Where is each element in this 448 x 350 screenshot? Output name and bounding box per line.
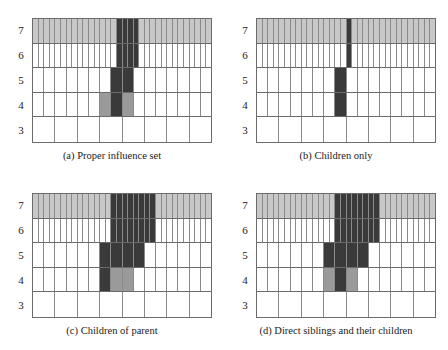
grid-cell bbox=[358, 268, 369, 292]
grid-cell bbox=[201, 68, 211, 92]
grid-cell bbox=[268, 268, 279, 292]
grid-cell bbox=[391, 268, 402, 292]
grid-cell bbox=[291, 243, 302, 267]
grid-cell bbox=[414, 243, 425, 267]
grid-cell bbox=[145, 292, 167, 317]
grid-cell bbox=[279, 243, 290, 267]
grid-cell bbox=[358, 93, 369, 117]
grid-cell bbox=[302, 292, 324, 317]
grid-cell bbox=[33, 68, 44, 92]
grid-cell bbox=[167, 243, 178, 267]
grid-cell bbox=[279, 93, 290, 117]
grid-cell bbox=[111, 243, 122, 267]
grid-cell bbox=[347, 268, 358, 292]
axis-label-6: 6 bbox=[12, 43, 30, 68]
grid-cell bbox=[279, 117, 301, 142]
grid-cell bbox=[402, 68, 413, 92]
grid-cell bbox=[33, 117, 55, 142]
grid-cell bbox=[206, 194, 211, 218]
axis-label-3: 3 bbox=[12, 293, 30, 318]
grid-cell bbox=[302, 68, 313, 92]
panel-b-grid bbox=[256, 18, 436, 143]
grid-row-level-6 bbox=[33, 219, 211, 244]
grid-cell bbox=[33, 93, 44, 117]
grid-cell bbox=[358, 243, 369, 267]
grid-cell bbox=[156, 68, 167, 92]
grid-cell bbox=[190, 268, 201, 292]
grid-row-level-3 bbox=[33, 292, 211, 317]
grid-cell bbox=[100, 292, 122, 317]
grid-cell bbox=[347, 292, 369, 317]
grid-cell bbox=[178, 68, 189, 92]
grid-cell bbox=[44, 68, 55, 92]
grid-cell bbox=[55, 268, 66, 292]
grid-cell bbox=[190, 93, 201, 117]
grid-cell bbox=[380, 68, 391, 92]
grid-cell bbox=[89, 93, 100, 117]
grid-cell bbox=[156, 243, 167, 267]
grid-cell bbox=[134, 93, 145, 117]
grid-cell bbox=[123, 117, 145, 142]
grid-cell bbox=[167, 93, 178, 117]
grid-row-level-3 bbox=[257, 292, 435, 317]
grid-cell bbox=[100, 268, 111, 292]
grid-row-level-4 bbox=[257, 268, 435, 293]
grid-cell bbox=[313, 93, 324, 117]
grid-cell bbox=[335, 93, 346, 117]
grid-cell bbox=[369, 93, 380, 117]
panel-b-caption: (b) Children only bbox=[224, 150, 448, 161]
grid-cell bbox=[414, 93, 425, 117]
grid-cell bbox=[257, 68, 268, 92]
grid-cell bbox=[167, 117, 189, 142]
axis-label-6: 6 bbox=[236, 43, 254, 68]
panel-c-grid bbox=[32, 193, 212, 318]
figure-container: 7 6 5 4 3 (a) Proper influence set 7 6 5… bbox=[0, 0, 448, 350]
grid-row-level-3 bbox=[257, 117, 435, 142]
grid-cell bbox=[279, 292, 301, 317]
axis-label-7: 7 bbox=[12, 18, 30, 43]
grid-cell bbox=[391, 93, 402, 117]
grid-cell bbox=[302, 268, 313, 292]
grid-cell bbox=[324, 243, 335, 267]
grid-cell bbox=[313, 243, 324, 267]
grid-cell bbox=[335, 268, 346, 292]
axis-label-7: 7 bbox=[236, 193, 254, 218]
grid-cell bbox=[430, 19, 435, 43]
grid-cell bbox=[145, 268, 156, 292]
grid-cell bbox=[33, 292, 55, 317]
grid-cell bbox=[201, 93, 211, 117]
grid-row-level-6 bbox=[257, 219, 435, 244]
grid-cell bbox=[111, 68, 122, 92]
grid-cell bbox=[178, 268, 189, 292]
grid-cell bbox=[414, 68, 425, 92]
grid-cell bbox=[44, 93, 55, 117]
grid-cell bbox=[268, 93, 279, 117]
grid-cell bbox=[369, 268, 380, 292]
grid-cell bbox=[391, 117, 413, 142]
grid-cell bbox=[134, 243, 145, 267]
grid-cell bbox=[347, 117, 369, 142]
grid-cell bbox=[134, 268, 145, 292]
grid-cell bbox=[145, 243, 156, 267]
grid-cell bbox=[380, 93, 391, 117]
grid-cell bbox=[123, 243, 134, 267]
panel-a-caption: (a) Proper influence set bbox=[0, 150, 224, 161]
grid-cell bbox=[100, 93, 111, 117]
grid-row-level-5 bbox=[257, 68, 435, 93]
axis-label-6: 6 bbox=[236, 218, 254, 243]
grid-cell bbox=[206, 44, 211, 68]
grid-cell bbox=[391, 68, 402, 92]
axis-label-4: 4 bbox=[236, 93, 254, 118]
grid-cell bbox=[268, 243, 279, 267]
panel-c: 7 6 5 4 3 (c) Children of parent bbox=[0, 175, 224, 350]
grid-cell bbox=[55, 117, 77, 142]
panel-d-axis-labels: 7 6 5 4 3 bbox=[236, 193, 254, 318]
grid-cell bbox=[201, 243, 211, 267]
grid-cell bbox=[145, 117, 167, 142]
grid-row-level-5 bbox=[257, 243, 435, 268]
panel-a-grid bbox=[32, 18, 212, 143]
panel-a-plot-area: 7 6 5 4 3 bbox=[0, 0, 224, 150]
panel-a-axis-labels: 7 6 5 4 3 bbox=[12, 18, 30, 143]
grid-cell bbox=[313, 268, 324, 292]
grid-cell bbox=[33, 243, 44, 267]
